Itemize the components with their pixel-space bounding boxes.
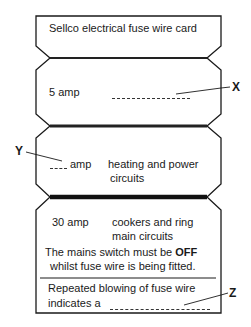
blank-z — [110, 308, 210, 310]
section2-rating-suffix: amp — [70, 158, 91, 171]
section2-use-line1: heating and power — [108, 158, 199, 171]
note-line2: indicates a — [48, 297, 101, 310]
section1-rating: 5 amp — [49, 86, 80, 99]
card-title: Sellco electrical fuse wire card — [49, 22, 197, 35]
section2-use-line2: circuits — [110, 172, 144, 185]
section3-rating: 30 amp — [52, 216, 89, 229]
label-z: Z — [229, 286, 236, 300]
warning-line2: whilst fuse wire is being fitted. — [50, 260, 196, 273]
blank-y — [50, 167, 67, 169]
warning-line1: The mains switch must be OFF — [45, 246, 197, 259]
label-y: Y — [15, 144, 23, 158]
section3-use-line2: main circuits — [112, 230, 173, 243]
label-x: X — [232, 80, 240, 94]
blank-x — [112, 97, 190, 99]
section3-use-line1: cookers and ring — [112, 216, 193, 229]
note-line1: Repeated blowing of fuse wire — [48, 282, 195, 295]
